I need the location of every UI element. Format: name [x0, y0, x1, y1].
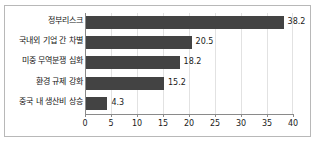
- category-label: 환경 규제 강화: [7, 75, 83, 88]
- bar-value-label: 15.2: [168, 76, 186, 89]
- x-tick-label: 40: [282, 118, 304, 129]
- bar-value-label: 20.5: [196, 35, 214, 48]
- tick-25: [215, 114, 216, 117]
- category-label: 정부리스크: [7, 14, 83, 27]
- tick-35: [267, 114, 268, 117]
- tick-40: [293, 114, 294, 117]
- tick-30: [241, 114, 242, 117]
- bar-value-label: 4.3: [111, 96, 124, 109]
- x-tick-label: 5: [100, 118, 122, 129]
- bar-row: 38.2: [85, 13, 293, 33]
- category-label: 미중 무역분쟁 심화: [7, 54, 83, 67]
- tick-0: [85, 114, 86, 117]
- x-tick-label: 0: [74, 118, 96, 129]
- chart-frame: 정부리스크 국내외 기업 간 차별 미중 무역분쟁 심화 환경 규제 강화 중국…: [4, 5, 311, 137]
- plot-area: 38.2 20.5 18.2 15.2 4.3: [85, 13, 293, 114]
- category-label: 국내외 기업 간 차별: [7, 34, 83, 47]
- category-label: 중국 내 생산비 상승: [7, 95, 83, 108]
- x-axis-tick-labels: 0 5 10 15 20 25 30 35 40: [5, 118, 312, 132]
- gridline-0: [85, 13, 86, 114]
- bar-environmental-regulation[interactable]: [85, 77, 164, 90]
- category-axis-labels: 정부리스크 국내외 기업 간 차별 미중 무역분쟁 심화 환경 규제 강화 중국…: [5, 13, 83, 114]
- bar-row: 4.3: [85, 94, 293, 114]
- tick-10: [137, 114, 138, 117]
- x-tick-label: 20: [178, 118, 200, 129]
- bar-row: 15.2: [85, 74, 293, 94]
- bar-government-risk[interactable]: [85, 16, 284, 29]
- bar-us-china-trade-dispute[interactable]: [85, 56, 180, 69]
- bar-row: 18.2: [85, 53, 293, 73]
- x-tick-label: 35: [256, 118, 278, 129]
- bar-value-label: 18.2: [184, 55, 202, 68]
- tick-5: [111, 114, 112, 117]
- tick-20: [189, 114, 190, 117]
- bar-value-label: 38.2: [288, 15, 306, 28]
- x-tick-label: 30: [230, 118, 252, 129]
- bar-domestic-foreign-discrimination[interactable]: [85, 36, 192, 49]
- bar-china-production-cost[interactable]: [85, 97, 107, 110]
- x-tick-label: 15: [152, 118, 174, 129]
- x-tick-label: 25: [204, 118, 226, 129]
- tick-15: [163, 114, 164, 117]
- bar-row: 20.5: [85, 33, 293, 53]
- x-tick-label: 10: [126, 118, 148, 129]
